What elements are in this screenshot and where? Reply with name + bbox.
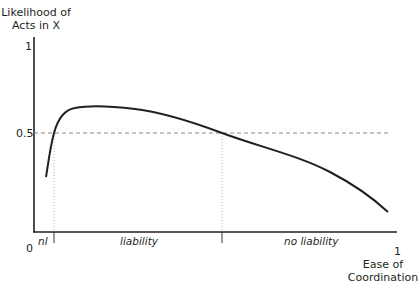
- region-liability-label: liability: [120, 235, 158, 248]
- likelihood-curve: [46, 106, 388, 212]
- x-tick-1: 1: [394, 245, 401, 258]
- y-axis-title: Likelihood of Acts in X: [0, 6, 72, 32]
- region-no-liability-label: no liability: [284, 235, 338, 248]
- y-axis-title-line1: Likelihood of: [0, 6, 72, 19]
- x-axis-title-line2: Coordination: [346, 271, 420, 284]
- x-axis-title-line1: Ease of: [346, 258, 420, 271]
- region-nl-label: nl: [38, 235, 48, 248]
- x-axis-title: Ease of Coordination: [346, 258, 420, 284]
- y-axis-title-line2: Acts in X: [0, 19, 72, 32]
- y-tick-half: 0.5: [16, 127, 34, 140]
- origin-label: 0: [26, 242, 33, 255]
- y-tick-1: 1: [25, 40, 32, 53]
